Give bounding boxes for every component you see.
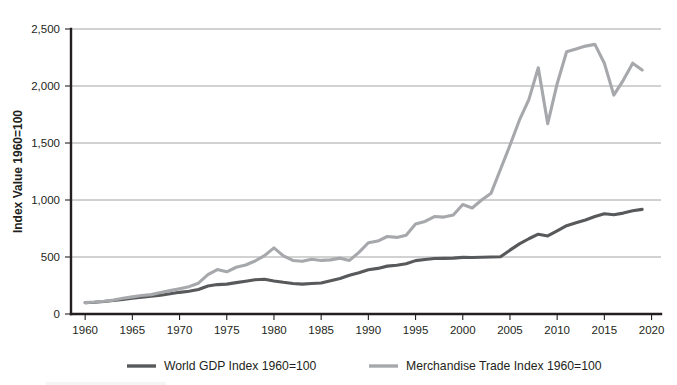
y-tick-label: 1,500	[31, 137, 60, 149]
x-tick-label: 1990	[356, 324, 382, 336]
x-tick-label: 1965	[120, 324, 146, 336]
legend: World GDP Index 1960=100Merchandise Trad…	[127, 359, 602, 373]
chart-canvas: 05001,0001,5002,0002,500 196019651970197…	[0, 0, 677, 385]
x-tick-label: 2020	[639, 324, 665, 336]
chart-figure: 05001,0001,5002,0002,500 196019651970197…	[0, 0, 677, 385]
legend-label: Merchandise Trade Index 1960=100	[406, 359, 602, 373]
y-tick-label: 2,500	[31, 23, 60, 35]
y-axis: 05001,0001,5002,0002,500	[31, 23, 71, 320]
x-tick-label: 2010	[544, 324, 570, 336]
x-tick-label: 1970	[167, 324, 193, 336]
series-line	[85, 44, 642, 302]
y-axis-title: Index Value 1960=100	[11, 110, 25, 233]
x-tick-label: 2005	[497, 324, 523, 336]
series-line	[85, 209, 642, 302]
x-tick-label: 2000	[450, 324, 476, 336]
x-tick-label: 1985	[308, 324, 334, 336]
y-tick-label: 1,000	[31, 194, 60, 206]
legend-label: World GDP Index 1960=100	[164, 359, 317, 373]
x-tick-label: 1975	[214, 324, 240, 336]
x-axis: 1960196519701975198019851990199520002005…	[71, 314, 664, 336]
x-tick-label: 1980	[261, 324, 287, 336]
data-series-group	[85, 44, 642, 302]
y-tick-label: 500	[41, 251, 60, 263]
y-tick-label: 0	[54, 308, 60, 320]
x-tick-label: 1995	[403, 324, 429, 336]
x-tick-label: 1960	[72, 324, 98, 336]
y-tick-label: 2,000	[31, 80, 60, 92]
x-tick-label: 2015	[592, 324, 618, 336]
